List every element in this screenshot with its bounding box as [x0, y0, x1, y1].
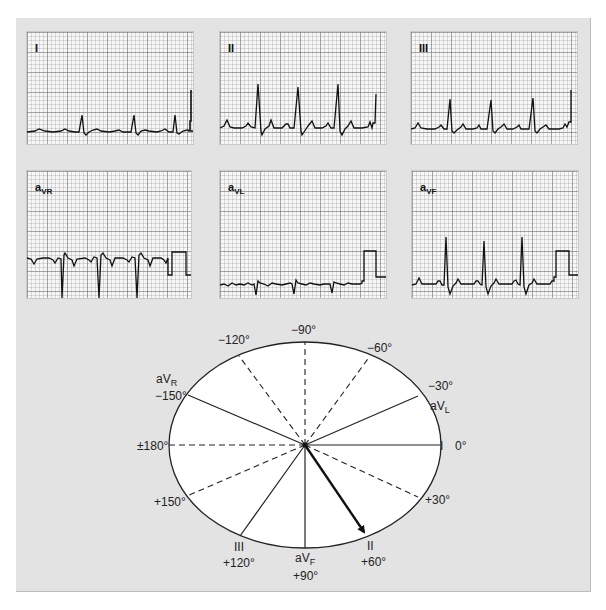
- label-minus-120: −120°: [218, 333, 250, 347]
- label-zero: 0°: [455, 439, 467, 453]
- label-plus-60: +60°: [361, 555, 386, 569]
- label-lead-iii: III: [234, 540, 244, 554]
- label-plus-minus-180: ±180°: [137, 439, 169, 453]
- label-plus-150: +150°: [154, 495, 186, 509]
- label-minus-90: −90°: [291, 323, 316, 337]
- label-minus-150: −150°: [155, 389, 187, 403]
- label-lead-i: I: [440, 439, 443, 453]
- label-plus-120: +120°: [223, 556, 255, 570]
- hexaxial-center: [303, 443, 308, 448]
- label-plus-30: +30°: [425, 493, 450, 507]
- label-minus-60: −60°: [367, 341, 392, 355]
- label-avr: aVR: [156, 372, 178, 388]
- label-minus-30: −30°: [428, 379, 453, 393]
- label-lead-ii: II: [367, 539, 374, 553]
- label-plus-90: +90°: [293, 569, 318, 583]
- label-avf: aVF: [295, 551, 316, 567]
- label-avl: aVL: [430, 399, 450, 415]
- hexaxial-diagram: −90° −120° −60° aVR −150° −30° aVL ±180°…: [0, 0, 606, 610]
